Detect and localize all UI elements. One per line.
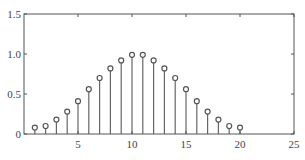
stem-point (86, 87, 91, 134)
stem-marker (119, 58, 124, 63)
stem-marker (97, 76, 102, 81)
stem-point (43, 124, 48, 135)
stem-point (184, 87, 189, 134)
stem-marker (151, 58, 156, 63)
stem-marker (194, 99, 199, 104)
stem-point (108, 66, 113, 134)
stem-chart: 510152025 00.51.01.5 (0, 0, 305, 160)
stem-point (130, 52, 135, 134)
y-tick-label: 0.5 (7, 88, 21, 100)
x-tick-label: 10 (127, 138, 139, 150)
stem-series (32, 52, 242, 134)
stem-marker (238, 125, 243, 130)
stem-marker (162, 66, 167, 71)
stem-point (227, 124, 232, 135)
stem-marker (205, 109, 210, 114)
y-tick-label: 1.5 (7, 8, 21, 20)
stem-point (32, 125, 37, 134)
stem-marker (65, 109, 70, 114)
x-tick-label: 15 (181, 138, 193, 150)
stem-marker (76, 99, 81, 104)
y-tick-labels: 00.51.01.5 (7, 8, 21, 140)
stem-point (162, 66, 167, 134)
axes-box (24, 14, 294, 134)
x-tick-label: 25 (289, 138, 301, 150)
stem-marker (130, 52, 135, 57)
stem-point (65, 109, 70, 134)
stem-marker (108, 66, 113, 71)
stem-marker (54, 117, 59, 122)
stem-point (76, 99, 81, 134)
stem-point (194, 99, 199, 134)
stem-point (119, 58, 124, 134)
x-tick-label: 5 (75, 138, 81, 150)
stem-marker (140, 52, 145, 57)
stem-point (205, 109, 210, 134)
stem-marker (184, 87, 189, 92)
x-tick-labels: 510152025 (75, 138, 300, 150)
stem-marker (86, 87, 91, 92)
axis-ticks (24, 14, 294, 134)
stem-point (151, 58, 156, 134)
x-tick-label: 20 (235, 138, 247, 150)
y-tick-label: 0 (16, 128, 22, 140)
y-tick-label: 1.0 (7, 48, 21, 60)
stem-point (216, 117, 221, 134)
stem-marker (173, 76, 178, 81)
stem-point (140, 52, 145, 134)
stem-point (97, 76, 102, 135)
stem-point (173, 76, 178, 135)
stem-marker (43, 124, 48, 129)
stem-marker (227, 124, 232, 129)
stem-point (54, 117, 59, 134)
stem-marker (32, 125, 37, 130)
stem-marker (216, 117, 221, 122)
